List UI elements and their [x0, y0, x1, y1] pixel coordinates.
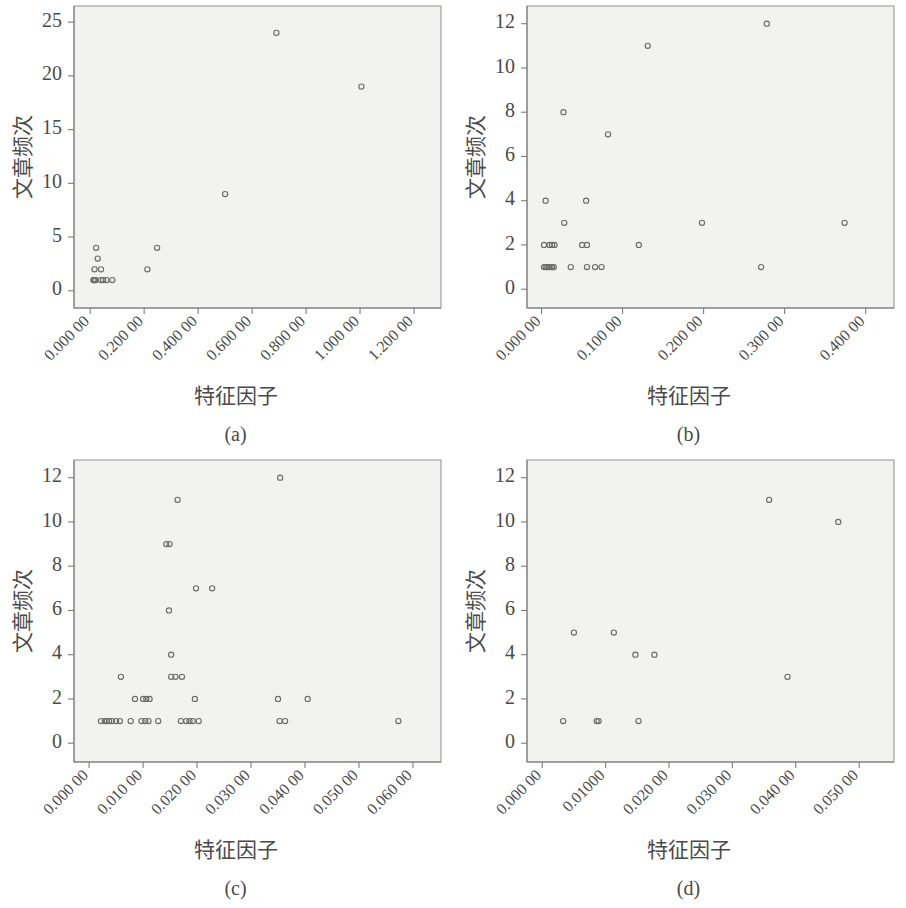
y-tick-label: 4 [505, 641, 515, 663]
panel-caption: (b) [677, 423, 700, 446]
x-tick-label: 0.800 00 [257, 312, 309, 364]
x-tick-label: 0.000 00 [493, 766, 545, 818]
x-tick-label: 0.000 00 [40, 766, 92, 818]
y-tick-label: 6 [52, 597, 62, 619]
y-tick-label: 8 [505, 99, 515, 121]
x-tick-label: 0.300 00 [735, 312, 787, 364]
y-tick-label: 4 [505, 187, 515, 209]
x-tick-label: 0.060 00 [363, 766, 415, 818]
x-axis-title: 特征因子 [194, 384, 278, 408]
plot-area [527, 6, 894, 308]
y-tick-label: 10 [495, 509, 515, 531]
y-tick-label: 15 [42, 116, 62, 138]
y-tick-label: 0 [505, 730, 515, 752]
x-tick-label: 0.050 00 [810, 766, 862, 818]
panel-a: 05101520250.000 000.200 000.400 000.600 … [0, 0, 453, 454]
x-tick-label: 0.01000 [559, 766, 608, 815]
y-tick-label: 10 [42, 170, 62, 192]
y-tick-label: 25 [42, 9, 62, 31]
x-tick-label: 0.030 00 [202, 766, 254, 818]
x-axis-title: 特征因子 [647, 384, 731, 408]
x-axis: 0.000 000.010 000.020 000.030 000.040 00… [40, 762, 441, 818]
x-axis: 0.000 000.010000.020 000.030 000.040 000… [493, 762, 894, 818]
y-axis-title: 文章频次 [11, 115, 35, 199]
y-tick-label: 0 [505, 276, 515, 298]
panel-c: 0246810120.000 000.010 000.020 000.030 0… [0, 454, 453, 908]
x-tick-label: 0.050 00 [309, 766, 361, 818]
x-tick-label: 0.040 00 [746, 766, 798, 818]
y-tick-label: 8 [52, 553, 62, 575]
x-tick-label: 0.400 00 [816, 312, 868, 364]
x-tick-label: 0.100 00 [573, 312, 625, 364]
x-tick-label: 0.020 00 [619, 766, 671, 818]
plot-area [527, 460, 894, 762]
x-tick-label: 0.000 00 [41, 312, 93, 364]
y-tick-label: 12 [42, 464, 62, 486]
y-tick-label: 12 [495, 10, 515, 32]
y-tick-label: 6 [505, 597, 515, 619]
y-tick-label: 2 [505, 232, 515, 254]
y-axis-title: 文章频次 [464, 115, 488, 199]
figure-four-scatter-panels: 05101520250.000 000.200 000.400 000.600 … [0, 0, 906, 908]
y-axis-title: 文章频次 [11, 569, 35, 653]
panel-b: 0246810120.000 000.100 000.200 000.300 0… [453, 0, 906, 454]
y-axis-title: 文章频次 [464, 569, 488, 653]
x-axis: 0.000 000.200 000.400 000.600 000.800 00… [41, 308, 441, 364]
x-tick-label: 0.020 00 [148, 766, 200, 818]
y-tick-label: 20 [42, 62, 62, 84]
x-axis: 0.000 000.100 000.200 000.300 000.400 00 [492, 308, 894, 364]
x-tick-label: 0.400 00 [149, 312, 201, 364]
x-tick-label: 1.000 00 [311, 312, 363, 364]
panel-caption: (c) [224, 877, 246, 900]
y-tick-label: 4 [52, 641, 62, 663]
panel-caption: (a) [224, 423, 246, 446]
x-tick-label: 0.200 00 [95, 312, 147, 364]
y-axis: 0510152025 [42, 6, 74, 308]
y-tick-label: 0 [52, 730, 62, 752]
y-axis: 024681012 [495, 460, 527, 762]
y-tick-label: 10 [42, 509, 62, 531]
x-tick-label: 0.200 00 [654, 312, 706, 364]
x-axis-title: 特征因子 [647, 838, 731, 862]
plot-area [74, 460, 441, 762]
y-tick-label: 12 [495, 464, 515, 486]
y-tick-label: 10 [495, 55, 515, 77]
x-tick-label: 0.040 00 [255, 766, 307, 818]
y-tick-label: 2 [52, 686, 62, 708]
panel-caption: (d) [677, 877, 700, 900]
x-tick-label: 0.600 00 [203, 312, 255, 364]
y-axis: 024681012 [42, 460, 74, 762]
y-tick-label: 5 [52, 224, 62, 246]
y-axis: 024681012 [495, 6, 527, 308]
y-tick-label: 2 [505, 686, 515, 708]
x-axis-title: 特征因子 [194, 838, 278, 862]
x-tick-label: 0.010 00 [94, 766, 146, 818]
y-tick-label: 8 [505, 553, 515, 575]
plot-area [74, 6, 441, 308]
panel-d: 0246810120.000 000.010000.020 000.030 00… [453, 454, 906, 908]
x-tick-label: 0.000 00 [492, 312, 544, 364]
x-tick-label: 0.030 00 [683, 766, 735, 818]
y-tick-label: 6 [505, 143, 515, 165]
x-tick-label: 1.200 00 [365, 312, 417, 364]
y-tick-label: 0 [52, 277, 62, 299]
